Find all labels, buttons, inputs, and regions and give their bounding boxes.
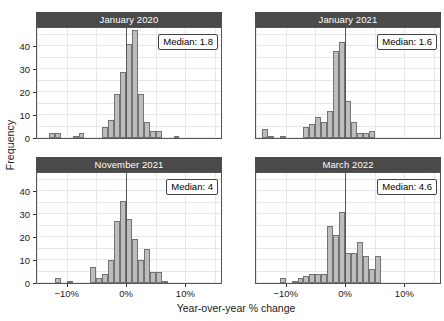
y-tick-label: 40 <box>8 41 30 52</box>
median-annotation: Median: 4 <box>166 179 218 195</box>
gridline-horizontal <box>256 91 440 92</box>
histogram-bar <box>55 278 61 283</box>
plot-area: Median: 1.8 <box>36 27 222 139</box>
histogram-bar <box>79 133 85 138</box>
y-tick-mark <box>33 69 36 70</box>
histogram-bar <box>280 136 286 138</box>
x-tick-label: 10% <box>176 288 195 299</box>
y-tick-mark <box>33 191 36 192</box>
histogram-bar <box>162 281 168 283</box>
facet-panel: January 2020Median: 1.8 <box>36 12 222 139</box>
gridline-horizontal <box>256 236 440 237</box>
histogram-bar <box>67 281 73 283</box>
facet-title: January 2021 <box>255 12 441 27</box>
x-axis-label: Year-over-year % change <box>36 302 436 314</box>
gridline-horizontal-minor <box>256 57 440 58</box>
x-tick-label: −10% <box>273 288 298 299</box>
facet-title: November 2021 <box>36 157 222 172</box>
y-tick-mark <box>33 237 36 238</box>
gridline-horizontal <box>256 213 440 214</box>
facet-panel: November 2021Median: 4 <box>36 157 222 284</box>
histogram-bar <box>174 136 180 138</box>
plot-area: Median: 4.6 <box>255 172 441 284</box>
y-tick-label: 10 <box>8 110 30 121</box>
histogram-bar <box>268 136 274 138</box>
plot-area: Median: 1.6 <box>255 27 441 139</box>
histogram-bar <box>156 131 162 138</box>
zero-reference-line <box>126 173 127 283</box>
y-tick-label: 0 <box>8 133 30 144</box>
plot-area: Median: 4 <box>36 172 222 284</box>
histogram-bar <box>55 133 61 138</box>
x-tick-label: −10% <box>54 288 79 299</box>
x-tick-mark <box>345 284 346 287</box>
y-tick-mark <box>33 283 36 284</box>
chart-figure: Frequency Year-over-year % change Januar… <box>0 0 444 321</box>
gridline-horizontal <box>256 68 440 69</box>
y-tick-mark <box>33 92 36 93</box>
gridline-horizontal-minor <box>256 225 440 226</box>
histogram-bar <box>280 278 286 283</box>
x-tick-mark <box>185 284 186 287</box>
y-tick-label: 30 <box>8 64 30 75</box>
y-tick-label: 20 <box>8 232 30 243</box>
median-annotation: Median: 1.6 <box>377 34 437 50</box>
facet-title: January 2020 <box>36 12 222 27</box>
median-annotation: Median: 4.6 <box>377 179 437 195</box>
zero-reference-line <box>126 28 127 138</box>
y-tick-mark <box>33 138 36 139</box>
gridline-horizontal <box>37 213 221 214</box>
gridline-horizontal-minor <box>37 202 221 203</box>
y-tick-label: 40 <box>8 186 30 197</box>
y-tick-mark <box>33 214 36 215</box>
zero-reference-line <box>345 28 346 138</box>
zero-reference-line <box>345 173 346 283</box>
x-tick-mark <box>286 284 287 287</box>
y-tick-label: 0 <box>8 278 30 289</box>
y-tick-mark <box>33 260 36 261</box>
x-tick-label: 0% <box>338 288 352 299</box>
median-annotation: Median: 1.8 <box>158 34 218 50</box>
gridline-horizontal-minor <box>256 202 440 203</box>
x-tick-mark <box>126 284 127 287</box>
gridline-horizontal-minor <box>256 80 440 81</box>
y-tick-mark <box>33 115 36 116</box>
gridline-horizontal-minor <box>256 248 440 249</box>
y-tick-label: 10 <box>8 255 30 266</box>
x-tick-label: 10% <box>395 288 414 299</box>
x-tick-mark <box>404 284 405 287</box>
facet-panel: January 2021Median: 1.6 <box>255 12 441 139</box>
histogram-bar <box>375 256 381 284</box>
y-tick-label: 30 <box>8 209 30 220</box>
facet-panel: March 2022Median: 4.6 <box>255 157 441 284</box>
y-tick-label: 20 <box>8 87 30 98</box>
facet-title: March 2022 <box>255 157 441 172</box>
x-tick-label: 0% <box>119 288 133 299</box>
x-tick-mark <box>67 284 68 287</box>
histogram-bar <box>369 131 375 138</box>
y-tick-mark <box>33 46 36 47</box>
